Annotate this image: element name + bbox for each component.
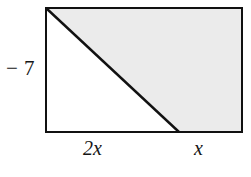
- figure-canvas: [0, 0, 251, 177]
- base-right-segment-label: x: [194, 138, 203, 158]
- base-left-segment-label: 2x: [83, 138, 102, 158]
- height-label: − 7: [6, 58, 35, 79]
- geometry-figure: − 7 2x x: [0, 0, 251, 177]
